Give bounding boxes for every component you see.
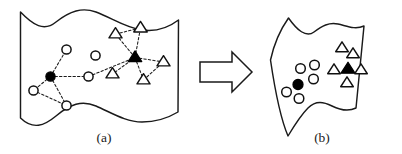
panel-a-region-outline (21, 10, 179, 126)
node-cluster-circle-1 (296, 64, 306, 74)
transition-arrow-icon (200, 52, 252, 92)
node-cluster-circle-4 (282, 87, 292, 97)
clustering-diagram: (a) (b) (0, 0, 402, 154)
panel-a-caption: (a) (97, 130, 112, 145)
node-hub-circle (46, 72, 55, 81)
node-cluster-circle-5 (294, 94, 304, 104)
node-cluster-circle-3 (309, 74, 319, 84)
panel-b-caption: (b) (314, 130, 330, 145)
node-circle-1 (62, 45, 71, 54)
node-cluster-circle-2 (310, 60, 320, 70)
node-triangle-2 (134, 21, 147, 32)
node-circle-3 (62, 101, 71, 110)
node-circle-2 (29, 86, 38, 95)
node-cluster-circle-filled (293, 80, 303, 90)
transition-arrow-group (200, 52, 252, 92)
figure-container: (a) (b) (0, 0, 402, 154)
panel-a: (a) (21, 10, 179, 145)
node-circle-4 (84, 72, 93, 81)
node-circle-5 (91, 51, 100, 60)
panel-b: (b) (271, 18, 368, 145)
